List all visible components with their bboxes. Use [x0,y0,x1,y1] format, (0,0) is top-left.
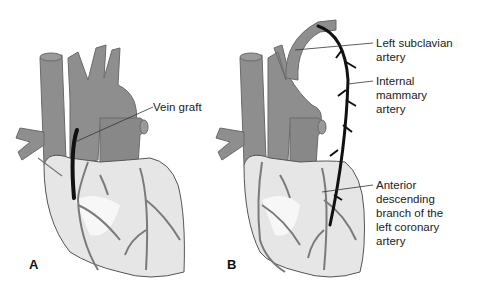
label-internal-mammary-artery: Internal mammary artery [376,74,427,116]
label-left-subclavian-artery: Left subclavian artery [376,36,453,64]
label-vein-graft: Vein graft [153,100,202,114]
panel-letter-a: A [29,257,38,272]
panel-b-heart [216,20,373,277]
panel-a-heart [16,45,184,277]
panel-letter-b: B [227,257,236,272]
label-anterior-descending-branch: Anterior descending branch of the left c… [376,178,443,248]
